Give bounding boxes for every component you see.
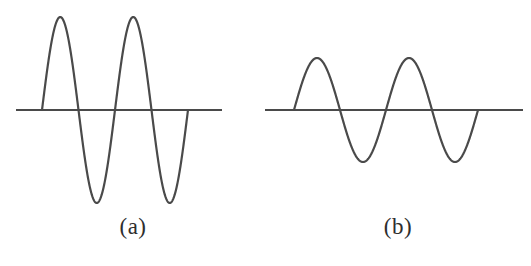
panel-caption-a: (a) — [0, 212, 266, 242]
panel-caption-b: (b) — [265, 212, 531, 242]
panel-a: (a) — [0, 0, 266, 266]
wave-comparison-figure: (a) (b) — [0, 0, 531, 266]
panel-b: (b) — [265, 0, 531, 266]
